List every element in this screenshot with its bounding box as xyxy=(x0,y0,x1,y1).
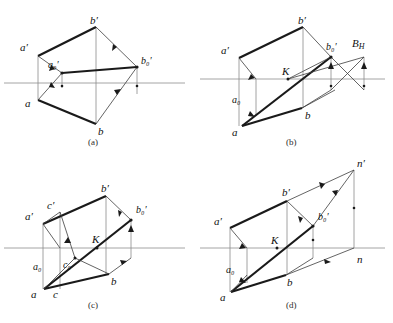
label-d-K: K xyxy=(270,234,279,246)
line-d-aP-a0 xyxy=(230,228,247,248)
vertex-b0P xyxy=(135,65,138,68)
line-d-aP-bP xyxy=(230,201,287,228)
technical-drawing-svg: b′ a′ a₀′ b₀′ a b b′ a′ b₀′ xyxy=(0,0,393,323)
label-c-a-point: a xyxy=(31,288,37,300)
arrow-d-b-n xyxy=(324,259,331,264)
vertex-b-b0P xyxy=(329,55,332,58)
panel-c: b′ c′ a′ b₀′ K a₀ c₀ a c b xyxy=(4,182,185,300)
label-d-n-prime: n′ xyxy=(357,157,366,169)
arrow-c-b-b0P xyxy=(120,260,127,265)
label-c-b0-prime: b₀′ xyxy=(136,204,147,215)
line-d-b-n xyxy=(286,248,354,275)
line-b0P-b xyxy=(96,67,137,124)
arrow-b0P-b xyxy=(114,89,121,95)
caption-b: (b) xyxy=(286,137,297,147)
label-b-a-point: a xyxy=(232,126,238,138)
label-c-a0: a₀ xyxy=(33,261,42,272)
label-d-b0-prime: b₀′ xyxy=(318,211,329,222)
line-b-K-b0P-thin xyxy=(288,57,331,79)
panel-a: b′ a′ a₀′ b₀′ a b xyxy=(4,14,185,137)
label-c-b-point: b xyxy=(111,275,117,287)
label-b-b-point: b xyxy=(305,109,311,121)
vertex-c-K xyxy=(96,247,99,250)
label-c-c-point: c xyxy=(53,288,58,300)
label-d-a-prime: a′ xyxy=(214,215,223,227)
figure-container: b′ a′ a₀′ b₀′ a b b′ a′ b₀′ xyxy=(0,0,393,323)
arrow-b-BH-up xyxy=(361,62,367,69)
line-a0P-b0P xyxy=(62,67,137,73)
label-b-BH: BH xyxy=(352,37,366,51)
label-d-b-prime: b′ xyxy=(282,186,291,198)
label-a-b0-prime: b₀′ xyxy=(141,55,152,66)
label-b-K: K xyxy=(281,65,290,77)
panel-d: n′ b′ a′ b₀′ K a₀ a b n xyxy=(200,157,385,303)
label-b-a-prime: a′ xyxy=(221,44,230,56)
line-c-c0-b xyxy=(75,258,109,274)
panel-b: b′ a′ b₀′ BH K a₀ a b xyxy=(200,14,385,138)
line-b-aP-a0 xyxy=(239,58,256,79)
tick-d-b0P-mid xyxy=(312,239,315,242)
label-a-b-point: b xyxy=(98,125,104,137)
label-c-c-prime: c′ xyxy=(47,199,55,211)
arrow-c-b0P-up xyxy=(128,225,134,232)
tick-a0-ground xyxy=(61,85,64,88)
label-a-a0-prime: a₀′ xyxy=(48,59,59,70)
line-aP-bP xyxy=(38,27,96,56)
label-a-a-prime: a′ xyxy=(20,41,29,53)
label-c-b-prime: b′ xyxy=(101,182,110,194)
label-c-K: K xyxy=(91,233,100,245)
tick-d-n-mid xyxy=(353,207,356,210)
label-a-b-prime: b′ xyxy=(90,14,99,26)
vertex-c-b0P xyxy=(129,218,132,221)
line-b-aP-bP xyxy=(239,27,303,58)
vertex-c-c0 xyxy=(74,257,77,260)
tick-b0-ground xyxy=(136,85,139,88)
caption-c: (c) xyxy=(88,300,98,310)
tick-b-b0P-ground xyxy=(330,85,333,88)
line-a-b xyxy=(38,100,96,124)
line-d-b-b0P xyxy=(286,258,313,275)
line-b-b-bottom-right xyxy=(302,90,335,108)
label-c-a-prime: a′ xyxy=(25,210,34,222)
arrow-b-a0-a xyxy=(248,111,255,117)
vertex-b-K xyxy=(287,78,290,81)
vertex-d-K xyxy=(276,247,279,250)
label-d-a0: a₀ xyxy=(226,264,235,275)
vertex-d-b0P xyxy=(311,224,314,227)
line-c-b-b0P xyxy=(109,258,131,274)
label-d-n-point: n xyxy=(357,253,363,265)
label-d-a-point: a xyxy=(220,291,226,303)
caption-d: (d) xyxy=(286,300,297,310)
arrow-d-bP-b0P xyxy=(298,216,303,223)
label-b-a0: a₀ xyxy=(232,94,241,105)
label-d-b-point: b xyxy=(287,276,293,288)
arrow-b-b0P-up xyxy=(328,62,334,69)
line-c-bP-b0P xyxy=(106,196,131,220)
label-c-c0: c₀ xyxy=(63,259,71,270)
line-c-aP-down xyxy=(43,224,60,248)
line-c-cP-c0 xyxy=(60,212,75,258)
label-a-a-point: a xyxy=(25,97,31,109)
label-b-b-prime: b′ xyxy=(298,14,307,26)
arrow-c-cP-down xyxy=(64,237,71,243)
line-b-a-b xyxy=(242,108,302,126)
tick-b-BH-ground xyxy=(363,85,366,88)
caption-a: (a) xyxy=(88,137,98,147)
label-b-b0-prime: b₀′ xyxy=(326,41,337,52)
label-b-BH-sub: H xyxy=(358,42,366,51)
vertex-a0P xyxy=(60,71,63,74)
